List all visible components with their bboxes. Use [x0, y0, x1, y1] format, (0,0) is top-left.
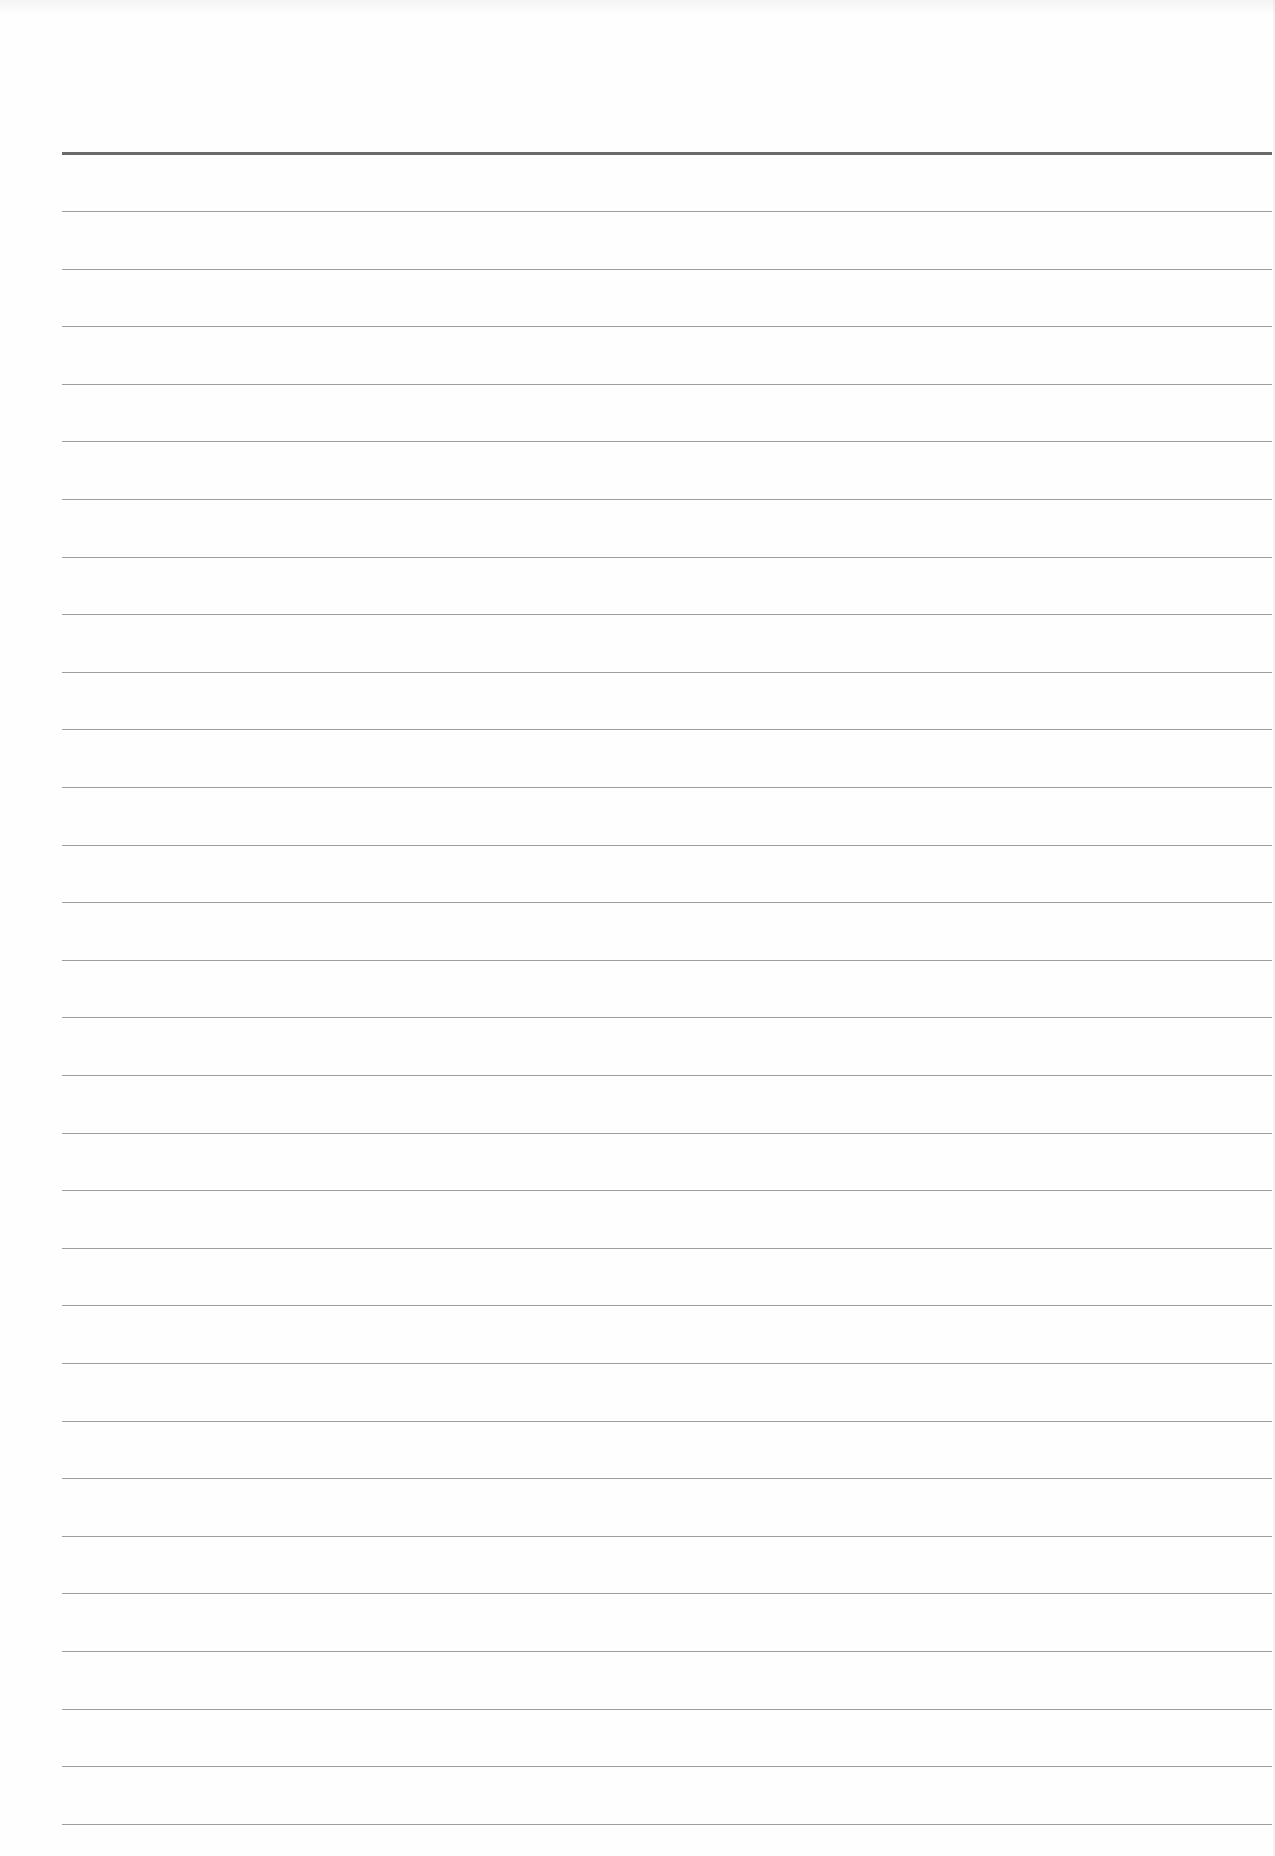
- ruled-line: [62, 1075, 1272, 1076]
- ruled-line: [62, 672, 1272, 673]
- ruled-line: [62, 1824, 1272, 1825]
- ruled-line: [62, 384, 1272, 385]
- ruled-line: [62, 269, 1272, 270]
- ruled-line: [62, 326, 1272, 327]
- ruled-line: [62, 1593, 1272, 1594]
- ruled-line: [62, 1421, 1272, 1422]
- ruled-line: [62, 1248, 1272, 1249]
- ruled-line: [62, 211, 1272, 212]
- header-rule: [62, 152, 1272, 155]
- ruled-line: [62, 1133, 1272, 1134]
- ruled-line: [62, 1536, 1272, 1537]
- ruled-line: [62, 1478, 1272, 1479]
- ruled-line: [62, 499, 1272, 500]
- ruled-line: [62, 1766, 1272, 1767]
- ruled-line: [62, 845, 1272, 846]
- ruled-line: [62, 1190, 1272, 1191]
- ruled-line: [62, 1651, 1272, 1652]
- scan-bleed-through: [0, 0, 1275, 14]
- ruled-line: [62, 960, 1272, 961]
- ruled-page: [0, 0, 1275, 1856]
- ruled-line: [62, 1305, 1272, 1306]
- ruled-line: [62, 1017, 1272, 1018]
- ruled-line: [62, 557, 1272, 558]
- ruled-line: [62, 441, 1272, 442]
- ruled-line: [62, 1709, 1272, 1710]
- ruled-line: [62, 614, 1272, 615]
- ruled-line: [62, 729, 1272, 730]
- ruled-line: [62, 902, 1272, 903]
- ruled-line: [62, 1363, 1272, 1364]
- ruled-line: [62, 787, 1272, 788]
